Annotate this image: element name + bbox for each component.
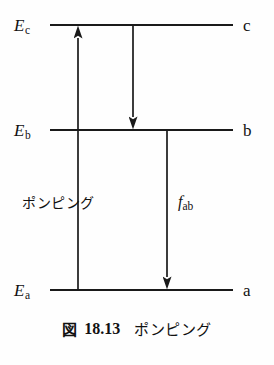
energy-symbol-c: E (14, 16, 24, 35)
energy-subscript-a: a (25, 289, 30, 301)
fab-transition-label: fab (178, 194, 193, 212)
state-label-b: b (243, 122, 252, 139)
caption-figure-number: 18.13 (84, 320, 120, 338)
energy-label-b: Eb (14, 122, 31, 141)
pumping-transition-label: ポンピング (22, 196, 95, 210)
energy-subscript-c: c (25, 24, 30, 36)
figure-caption: 図18.13ポンピング (0, 318, 274, 339)
figure-container: Ec Eb Ea c b a ポンピング fab 図18.13ポンピング (0, 0, 274, 365)
state-label-a: a (243, 282, 251, 299)
caption-figure-word: 図 (62, 318, 77, 339)
state-label-c: c (243, 17, 251, 34)
energy-level-diagram (0, 0, 274, 310)
energy-label-a: Ea (14, 282, 30, 301)
fab-subscript: ab (182, 200, 193, 212)
energy-label-c: Ec (14, 17, 30, 36)
energy-symbol-b: E (14, 121, 24, 140)
caption-figure-text: ポンピング (134, 318, 212, 339)
energy-symbol-a: E (14, 281, 24, 300)
energy-subscript-b: b (25, 129, 31, 141)
